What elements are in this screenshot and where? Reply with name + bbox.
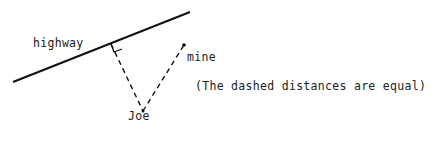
diagram-canvas (0, 0, 434, 147)
mine-label: mine (187, 50, 216, 64)
joe-label: Joe (128, 109, 150, 123)
note-text: (The dashed distances are equal) (195, 79, 426, 93)
perpendicular-dashed-line (111, 44, 143, 111)
mine-point (182, 43, 186, 47)
mine-dashed-line (143, 45, 184, 111)
highway-label: highway (33, 36, 84, 50)
